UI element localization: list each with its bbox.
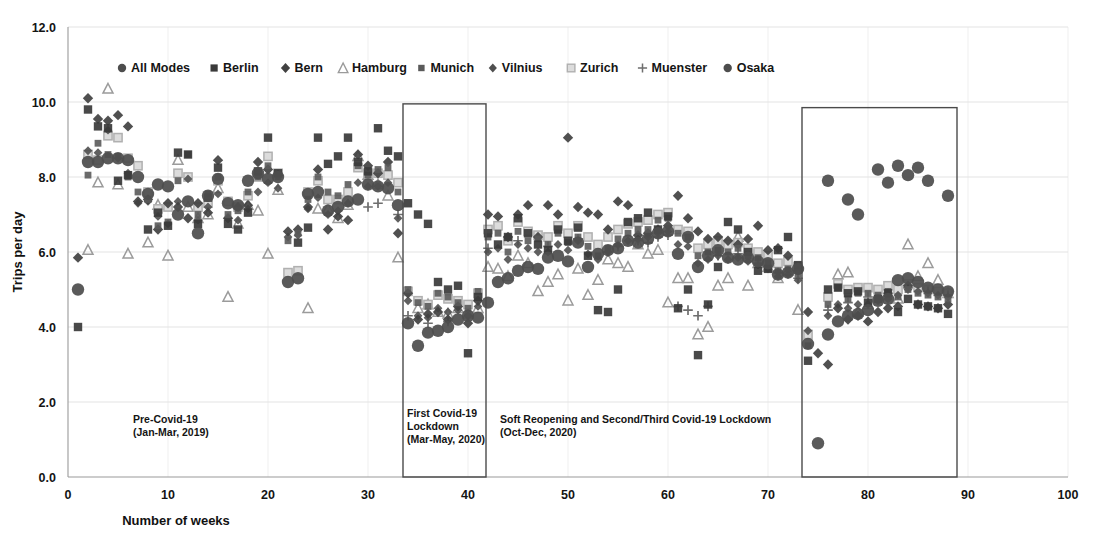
data-point <box>494 240 502 248</box>
data-point <box>162 180 174 192</box>
legend-item-hamburg[interactable]: Hamburg <box>338 61 407 75</box>
data-point <box>912 161 924 173</box>
data-point <box>695 252 702 259</box>
chart-canvas: 0.02.04.06.08.010.012.001020304050607080… <box>0 0 1098 537</box>
data-point <box>195 211 202 218</box>
data-point <box>655 217 662 224</box>
data-point <box>713 280 723 290</box>
data-point <box>774 259 782 267</box>
legend-marker-square <box>211 64 218 71</box>
data-point <box>505 249 512 256</box>
chart-legend[interactable]: All ModesBerlinBernHamburgMunichVilniusZ… <box>118 61 775 75</box>
legend-item-zurich[interactable]: Zurich <box>567 61 618 75</box>
data-point <box>412 340 424 352</box>
data-point <box>922 175 934 187</box>
data-point <box>434 278 442 286</box>
data-point <box>852 208 864 220</box>
data-point <box>284 269 292 277</box>
data-point <box>202 190 214 202</box>
y-tick-label: 12.0 <box>32 21 56 35</box>
data-point <box>72 283 84 295</box>
legend-marker-circle <box>724 64 732 72</box>
data-point <box>133 196 143 206</box>
data-point <box>684 285 692 293</box>
legend-item-vilnius[interactable]: Vilnius <box>489 61 543 75</box>
data-point <box>543 200 553 210</box>
data-point <box>493 263 503 273</box>
y-tick-label: 8.0 <box>39 171 56 185</box>
data-point <box>562 255 574 267</box>
data-point <box>714 263 722 271</box>
data-point <box>495 230 502 237</box>
data-point <box>192 227 204 239</box>
data-point <box>393 252 403 262</box>
x-tick-label: 40 <box>461 488 475 502</box>
data-point <box>643 248 653 258</box>
data-point <box>182 195 194 207</box>
data-point <box>442 321 454 333</box>
data-point <box>253 157 263 167</box>
data-point <box>683 305 693 315</box>
legend-item-all-modes[interactable]: All Modes <box>118 61 190 75</box>
data-point <box>354 158 362 166</box>
y-axis-title: Trips per day <box>10 211 25 293</box>
data-point <box>493 211 503 221</box>
legend-marker-square <box>418 65 424 71</box>
data-point <box>123 121 133 131</box>
legend-item-label: Vilnius <box>502 61 543 75</box>
data-point <box>104 124 112 132</box>
data-point <box>242 175 254 187</box>
data-point <box>143 237 153 247</box>
data-point <box>172 208 184 220</box>
legend-marker-circle <box>118 64 126 72</box>
x-tick-label: 20 <box>261 488 275 502</box>
data-point <box>683 213 693 223</box>
legend-item-osaka[interactable]: Osaka <box>724 61 776 75</box>
data-point <box>564 237 572 245</box>
data-point <box>672 248 684 260</box>
y-tick-label: 6.0 <box>39 246 56 260</box>
annotation-line: (Jan-Mar, 2019) <box>133 426 209 438</box>
data-point <box>73 252 83 262</box>
series-bern <box>73 93 953 370</box>
data-point <box>914 300 922 308</box>
data-point <box>762 257 774 269</box>
data-point <box>822 175 834 187</box>
data-point <box>344 133 352 141</box>
data-point <box>483 262 493 272</box>
data-point <box>734 225 742 233</box>
data-point <box>363 202 373 212</box>
data-point <box>455 299 462 306</box>
data-point <box>823 359 833 369</box>
x-axis-ticks: 0102030405060708090100 <box>65 488 1079 502</box>
data-point <box>155 222 162 229</box>
data-point <box>624 218 632 226</box>
data-point <box>224 220 232 228</box>
data-point <box>534 248 543 257</box>
data-point <box>93 177 103 187</box>
data-point <box>313 203 323 213</box>
data-point <box>464 349 472 357</box>
x-tick-label: 100 <box>1058 488 1079 502</box>
data-point <box>375 166 382 173</box>
data-point <box>414 210 422 218</box>
legend-item-munich[interactable]: Munich <box>418 61 474 75</box>
data-point <box>303 202 313 212</box>
legend-item-muenster[interactable]: Muenster <box>638 61 707 75</box>
data-point <box>833 269 843 279</box>
x-tick-label: 30 <box>361 488 375 502</box>
data-point <box>533 286 543 296</box>
data-point <box>865 290 872 297</box>
data-point <box>303 303 313 313</box>
data-point <box>585 243 592 250</box>
data-point <box>543 277 553 287</box>
legend-item-bern[interactable]: Bern <box>281 61 323 75</box>
legend-item-label: Munich <box>430 61 474 75</box>
data-point <box>614 285 622 293</box>
legend-item-berlin[interactable]: Berlin <box>211 61 259 75</box>
data-point <box>774 246 782 254</box>
annotation-line: First Covid-19 <box>407 407 477 419</box>
data-point <box>822 328 834 340</box>
data-point <box>84 105 92 113</box>
data-point <box>724 218 732 226</box>
